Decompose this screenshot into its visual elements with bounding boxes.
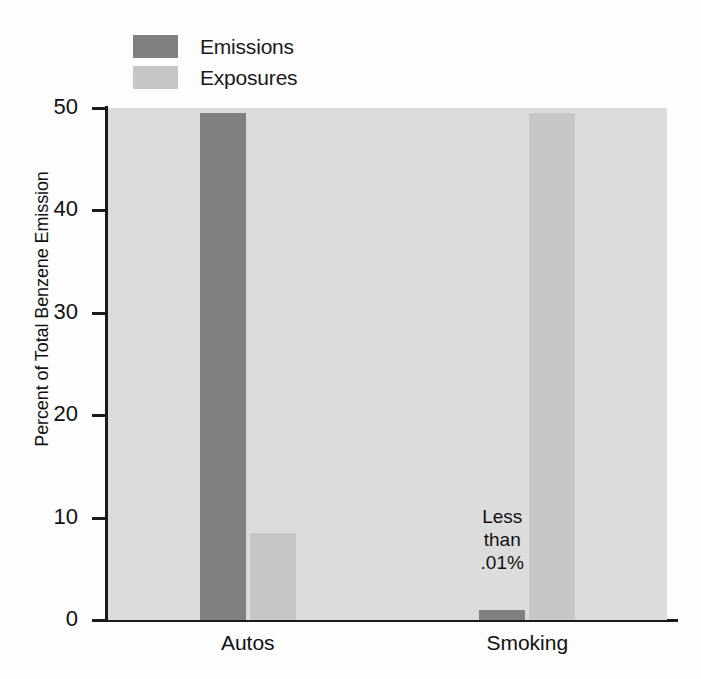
legend-item-emissions: Emissions bbox=[133, 32, 393, 60]
y-axis-tick bbox=[92, 619, 106, 622]
annotation-less-than: Less than .01% bbox=[442, 505, 562, 574]
y-axis-tick-label: 0 bbox=[0, 608, 78, 630]
y-axis-tick-label: 40 bbox=[0, 198, 78, 220]
y-axis-tick-label: 30 bbox=[0, 301, 78, 323]
legend-item-exposures: Exposures bbox=[133, 63, 393, 91]
y-axis-tick bbox=[92, 209, 106, 212]
bar-autos-exposures bbox=[250, 533, 296, 620]
bar-smoking-emissions bbox=[479, 610, 525, 620]
legend-swatch-emissions bbox=[133, 35, 178, 58]
x-axis-tick-label-autos: Autos bbox=[168, 632, 328, 653]
plot-area bbox=[108, 108, 667, 620]
chart-legend: Emissions Exposures bbox=[133, 32, 393, 94]
bar-autos-emissions bbox=[200, 113, 246, 620]
y-axis-tick bbox=[92, 517, 106, 520]
y-axis-tick bbox=[92, 107, 106, 110]
x-axis-tick-label-smoking: Smoking bbox=[447, 632, 607, 653]
legend-label-exposures: Exposures bbox=[200, 67, 297, 88]
y-axis-tick bbox=[92, 414, 106, 417]
legend-swatch-exposures bbox=[133, 66, 178, 89]
legend-label-emissions: Emissions bbox=[200, 36, 294, 57]
y-axis-tick-label: 10 bbox=[0, 506, 78, 528]
y-axis-tick-label: 20 bbox=[0, 403, 78, 425]
y-axis-tick-label: 50 bbox=[0, 96, 78, 118]
y-axis-tick bbox=[92, 312, 106, 315]
benzene-emission-bar-chart: Emissions Exposures Percent of Total Ben… bbox=[0, 0, 701, 679]
